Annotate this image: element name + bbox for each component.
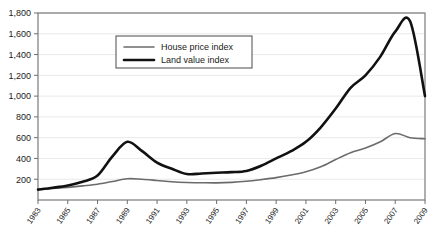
chart-canvas: 2004006008001,0001,2001,4001,6001,800 19…	[0, 0, 436, 248]
y-tick-label: 1,600	[8, 29, 31, 39]
chart-legend: House price indexLand value index	[116, 36, 252, 68]
x-tick-label: 1985	[55, 206, 73, 226]
line-chart: 2004006008001,0001,2001,4001,6001,800 19…	[0, 0, 436, 248]
x-tick-label: 2007	[382, 206, 400, 226]
x-tick-label: 2009	[412, 206, 430, 226]
y-tick-label: 600	[16, 133, 31, 143]
legend-label: House price index	[161, 42, 234, 52]
y-tick-label: 800	[16, 112, 31, 122]
x-tick-label: 1997	[233, 206, 251, 226]
y-axis-ticks: 2004006008001,0001,2001,4001,6001,800	[8, 8, 38, 184]
y-tick-label: 1,400	[8, 50, 31, 60]
y-tick-label: 200	[16, 175, 31, 185]
y-tick-label: 400	[16, 154, 31, 164]
x-tick-label: 1993	[174, 206, 192, 226]
y-tick-label: 1,000	[8, 91, 31, 101]
x-tick-label: 1983	[25, 206, 43, 226]
series-line-house-price-index	[38, 133, 425, 189]
y-tick-label: 1,800	[8, 8, 31, 18]
x-tick-label: 1995	[204, 206, 222, 226]
x-tick-label: 1991	[144, 206, 162, 226]
x-tick-label: 1987	[85, 206, 103, 226]
x-tick-label: 2005	[353, 206, 371, 226]
x-tick-label: 2003	[323, 206, 341, 226]
y-tick-label: 1,200	[8, 71, 31, 81]
x-tick-label: 1989	[114, 206, 132, 226]
x-tick-label: 1999	[263, 206, 281, 226]
x-tick-label: 2001	[293, 206, 311, 226]
x-axis-ticks: 1983198519871989199119931995199719992001…	[25, 200, 430, 226]
legend-label: Land value index	[161, 55, 230, 65]
